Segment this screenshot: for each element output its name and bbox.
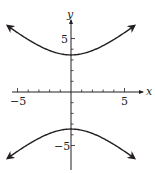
y-tick-label-5: 5 [61, 33, 68, 46]
hyperbola-plot: y x −5 5 5 −5 [0, 0, 155, 173]
y-axis-label: y [66, 8, 74, 21]
x-tick-label-5: 5 [121, 95, 128, 108]
x-tick-label-neg5: −5 [10, 95, 26, 108]
x-axis-label: x [146, 85, 153, 98]
y-tick-label-neg5: −5 [54, 140, 70, 153]
